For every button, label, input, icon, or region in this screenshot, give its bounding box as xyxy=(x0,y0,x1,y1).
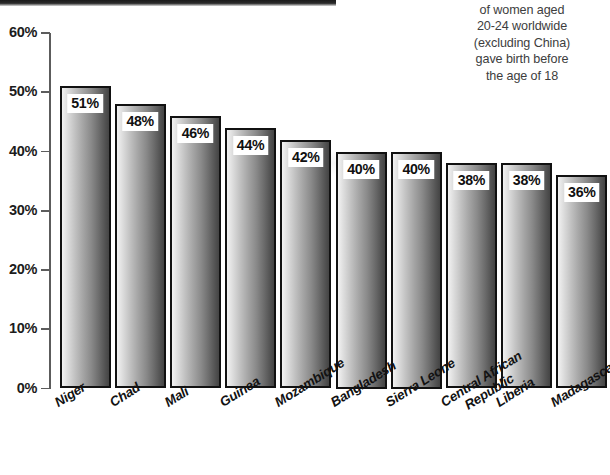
bar[interactable]: 38% xyxy=(446,163,497,388)
bar[interactable]: 40% xyxy=(336,152,387,389)
y-axis-tick-label: 60% xyxy=(0,24,37,40)
y-axis-tick-label: 0% xyxy=(0,380,37,396)
bar[interactable]: 44% xyxy=(225,128,276,389)
bar-value-label: 40% xyxy=(398,160,434,179)
y-axis-tick-label: 10% xyxy=(0,320,37,336)
y-axis-tick-label: 30% xyxy=(0,202,37,218)
bar[interactable]: 36% xyxy=(556,175,607,388)
bar[interactable]: 51% xyxy=(60,86,111,388)
bar[interactable]: 46% xyxy=(170,116,221,389)
y-axis-tick-label: 50% xyxy=(0,83,37,99)
bar-value-label: 40% xyxy=(343,160,379,179)
plot-area: 60%50%40%30%20%10%0% 51%48%46%44%42%40%4… xyxy=(0,0,610,475)
y-axis-tick-label: 40% xyxy=(0,143,37,159)
y-axis-tick xyxy=(41,210,50,212)
y-axis-tick xyxy=(41,388,50,390)
bar-value-label: 46% xyxy=(178,124,214,143)
bar-value-label: 51% xyxy=(67,94,103,113)
bar[interactable]: 40% xyxy=(391,152,442,389)
bar-value-label: 48% xyxy=(122,112,158,131)
y-axis-tick xyxy=(41,91,50,93)
bar-value-label: 36% xyxy=(564,183,600,202)
bar-value-label: 44% xyxy=(233,136,269,155)
bar-chart: of women aged 20-24 worldwide (excluding… xyxy=(0,0,610,475)
bar[interactable]: 48% xyxy=(115,104,166,388)
y-axis-tick xyxy=(41,269,50,271)
bar-value-label: 42% xyxy=(288,148,324,167)
bar[interactable]: 42% xyxy=(280,140,331,389)
bar-value-label: 38% xyxy=(454,171,490,190)
bar-value-label: 38% xyxy=(509,171,545,190)
y-axis-tick-label: 20% xyxy=(0,261,37,277)
y-axis-tick xyxy=(41,328,50,330)
y-axis-tick xyxy=(41,32,50,34)
y-axis-tick xyxy=(41,151,50,153)
